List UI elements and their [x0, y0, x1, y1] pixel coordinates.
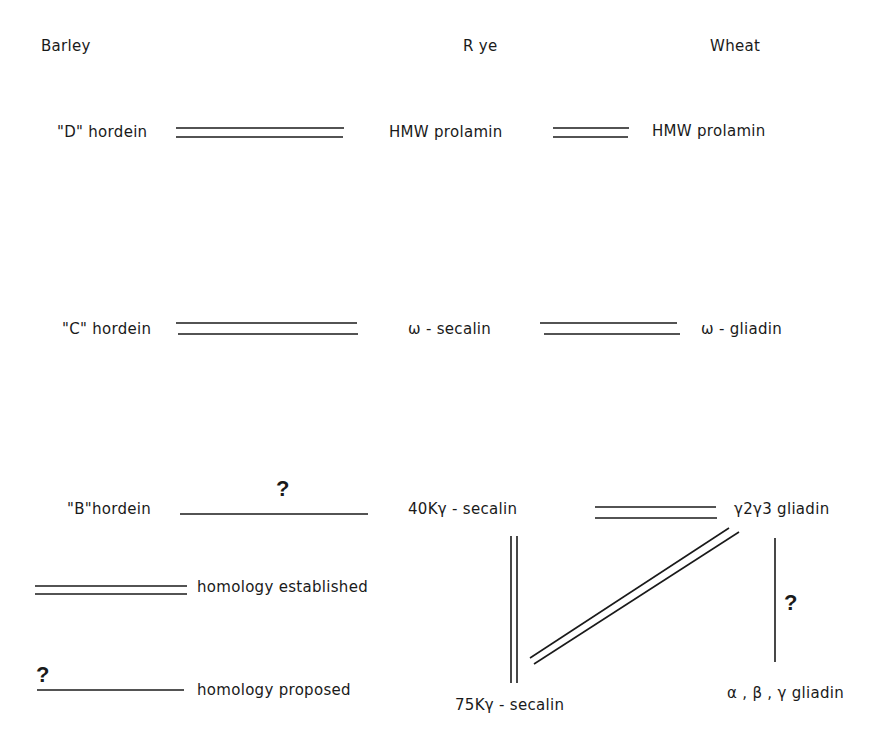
label-40k-gamma-secalin: 40Kγ - secalin — [408, 502, 517, 517]
label-alpha-beta-gamma-gliadin: α , β , γ gliadin — [727, 686, 844, 701]
link-gamma-75k-diagonal-double-line — [530, 528, 739, 664]
link-b-rye-wheat-double-line — [595, 507, 717, 518]
link-c-barley-rye-double-line — [176, 323, 358, 334]
question-mark-wheat-link: ? — [784, 592, 797, 614]
label-omega-gliadin: ω - gliadin — [701, 322, 782, 337]
label-d-hordein: "D" hordein — [57, 125, 147, 140]
question-mark-b-link: ? — [276, 478, 289, 500]
label-75k-gamma-secalin: 75Kγ - secalin — [455, 698, 564, 713]
link-c-rye-wheat-double-line — [540, 323, 680, 334]
legend-established-double-line — [35, 586, 187, 594]
link-d-barley-rye-double-line — [176, 128, 344, 137]
legend-question-mark: ? — [36, 664, 49, 686]
label-rye-hmw-prolamin: HMW prolamin — [389, 125, 503, 140]
link-d-rye-wheat-double-line — [553, 128, 629, 137]
label-omega-secalin: ω - secalin — [408, 322, 491, 337]
legend-proposed-label: homology proposed — [197, 683, 351, 698]
legend-established-label: homology established — [197, 580, 368, 595]
label-b-hordein: "B"hordein — [67, 502, 151, 517]
link-40k-75k-double-line — [511, 536, 517, 683]
label-c-hordein: "C" hordein — [62, 322, 151, 337]
label-wheat-hmw-prolamin: HMW prolamin — [652, 124, 766, 139]
label-gamma2-gamma3-gliadin: γ2γ3 gliadin — [734, 502, 829, 517]
homology-lines — [0, 0, 881, 743]
